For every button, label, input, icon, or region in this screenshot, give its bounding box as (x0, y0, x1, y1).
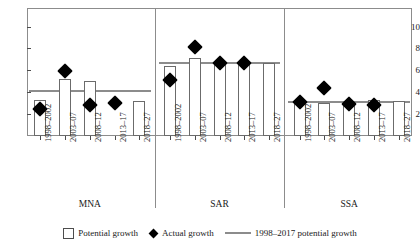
x-axis-tick-mark (220, 136, 221, 140)
x-axis-tick-mark (324, 136, 325, 140)
gray-line-icon (225, 232, 251, 235)
y-axis-tick-mark (27, 27, 31, 28)
y-axis-tick-mark (27, 114, 31, 115)
x-axis-tick-mark (399, 136, 400, 140)
x-axis-period-label: 1998–2002 (44, 104, 53, 142)
x-axis-period-label: 2013–17 (378, 112, 387, 142)
x-axis-period-label: 2018–27 (403, 112, 412, 142)
group-separator (155, 9, 156, 208)
x-axis-tick-mark (244, 136, 245, 140)
x-axis-tick-mark (170, 136, 171, 140)
x-axis-tick-mark (300, 136, 301, 140)
x-axis-tick-mark (269, 136, 270, 140)
growth-chart-figure: 246810 1998–20022003–072008–122013–17201… (0, 0, 420, 245)
x-axis-period-label: 2018–27 (143, 112, 152, 142)
x-axis-period-label: 2008–12 (224, 112, 233, 142)
x-axis-period-label: 2003–07 (199, 112, 208, 142)
legend-item-potential-growth: Potential growth (63, 228, 138, 239)
x-axis-tick-mark (65, 136, 66, 140)
x-axis-period-label: 2003–07 (328, 112, 337, 142)
group-label-ssa: SSA (287, 199, 411, 209)
x-axis-period-label: 1998–2002 (304, 104, 313, 142)
x-axis-tick-mark (374, 136, 375, 140)
x-axis-tick-mark (40, 136, 41, 140)
group-separator (284, 9, 285, 208)
y-axis-tick-label: 4 (400, 88, 420, 97)
legend-item-actual-growth: Actual growth (149, 229, 214, 238)
group-label-sar: SAR (158, 199, 282, 209)
y-axis-tick-mark (27, 48, 31, 49)
legend-label-actual-growth: Actual growth (162, 229, 214, 238)
legend-label-potential-growth: Potential growth (78, 229, 138, 238)
x-axis-period-label: 2008–12 (353, 112, 362, 142)
x-axis-tick-mark (90, 136, 91, 140)
x-axis-period-label: 1998–2002 (174, 104, 183, 142)
x-axis-tick-mark (115, 136, 116, 140)
x-axis-period-label: 2013–17 (119, 112, 128, 142)
x-axis-tick-mark (195, 136, 196, 140)
y-axis-tick-mark (27, 70, 31, 71)
x-axis-tick-mark (349, 136, 350, 140)
x-axis-period-label: 2008–12 (94, 112, 103, 142)
x-axis-period-label: 2013–17 (248, 112, 257, 142)
x-axis-tick-mark (139, 136, 140, 140)
group-label-mna: MNA (28, 199, 152, 209)
y-axis-tick-label: 8 (400, 44, 420, 53)
x-axis-period-label: 2018–27 (273, 112, 282, 142)
y-axis-tick-mark (27, 92, 31, 93)
white-square-icon (63, 228, 74, 239)
chart-legend: Potential growth Actual growth 1998–2017… (0, 224, 420, 242)
legend-label-reference-line: 1998–2017 potential growth (255, 229, 357, 238)
legend-item-reference-line: 1998–2017 potential growth (225, 229, 357, 238)
y-axis-tick-label: 6 (400, 66, 420, 75)
black-diamond-icon (149, 228, 159, 238)
y-axis-tick-label: 10 (400, 22, 420, 31)
x-axis-period-label: 2003–07 (69, 112, 78, 142)
